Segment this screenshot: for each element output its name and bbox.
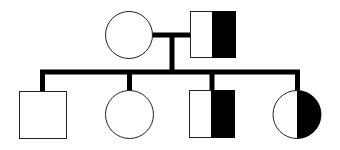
child-1-male-unaffected [20, 92, 67, 139]
pedigree-diagram [0, 0, 340, 150]
female-circle-icon [106, 12, 153, 59]
child-3-male-half-affected [190, 90, 236, 138]
female-circle-icon [106, 91, 154, 139]
mother-female-unaffected [106, 12, 153, 59]
father-male-half-affected [191, 11, 237, 58]
affected-half-fill [297, 91, 321, 139]
affected-half-fill [212, 11, 236, 58]
affected-half-fill [211, 90, 235, 138]
male-square-icon [20, 92, 67, 139]
child-4-female-half-affected [273, 91, 321, 139]
child-2-female-unaffected [106, 91, 154, 139]
connector-lines [40, 35, 300, 92]
